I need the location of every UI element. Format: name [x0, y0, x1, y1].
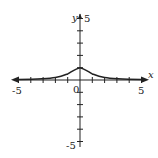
y-min-label: -5 — [66, 140, 76, 151]
origin-label: 0 — [73, 84, 79, 95]
y-axis-label: y — [71, 12, 78, 23]
x-min-label: -5 — [12, 85, 22, 96]
y-max-label: 5 — [84, 13, 90, 24]
x-max-label: 5 — [138, 85, 144, 96]
x-axis-label: x — [148, 69, 154, 80]
function-graph: y 5 x -5 5 0 -5 — [0, 0, 158, 158]
curve-left-arrow-icon — [11, 77, 19, 83]
